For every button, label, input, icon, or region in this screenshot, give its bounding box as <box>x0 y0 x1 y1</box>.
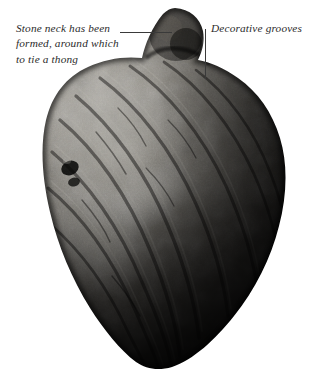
leader-line-grooves <box>205 29 206 79</box>
figure-container: Stone neck has been formed, around which… <box>0 0 315 376</box>
annotation-label-stone-neck: Stone neck has been formed, around which… <box>16 21 119 67</box>
annotation-label-decorative-grooves: Decorative grooves <box>211 21 302 36</box>
annotation-neck-line-1: Stone neck has been <box>16 21 119 36</box>
leader-line-neck <box>120 32 172 33</box>
annotation-grooves-line-1: Decorative grooves <box>211 21 302 36</box>
annotation-neck-line-2: formed, around which <box>16 36 119 51</box>
annotation-neck-line-3: to tie a thong <box>16 52 119 67</box>
